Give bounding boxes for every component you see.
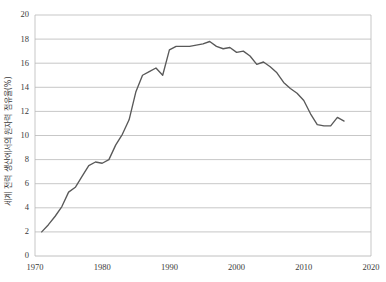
y-tick-14: 14 <box>21 82 30 92</box>
y-tick-6: 6 <box>25 178 29 188</box>
y-tick-8: 8 <box>25 154 29 164</box>
y-tick-18: 18 <box>21 34 30 44</box>
x-tick-2000: 2000 <box>228 262 245 272</box>
y-tick-20: 20 <box>21 9 30 19</box>
x-tick-2010: 2010 <box>295 262 312 272</box>
chart-canvas: 02468101214161820 1970198019902000201020… <box>0 0 386 282</box>
x-tick-1990: 1990 <box>161 262 178 272</box>
gridlines-group <box>35 15 371 256</box>
nuclear-share-series-line <box>42 42 344 232</box>
y-axis-tick-labels: 02468101214161820 <box>21 9 30 260</box>
x-tick-1980: 1980 <box>94 262 111 272</box>
y-tick-4: 4 <box>25 202 30 212</box>
y-tick-0: 0 <box>25 250 29 260</box>
y-axis-title: 세계 전력 생산에서의 원자력 점유율(%) <box>3 76 13 205</box>
x-axis-tick-labels: 197019801990200020102020 <box>27 262 380 272</box>
x-tick-1970: 1970 <box>27 262 44 272</box>
nuclear-share-line-chart: 02468101214161820 1970198019902000201020… <box>0 0 386 282</box>
x-tick-2020: 2020 <box>363 262 380 272</box>
y-tick-16: 16 <box>21 58 30 68</box>
y-tick-10: 10 <box>21 130 30 140</box>
y-tick-2: 2 <box>25 226 29 236</box>
y-tick-12: 12 <box>21 106 30 116</box>
